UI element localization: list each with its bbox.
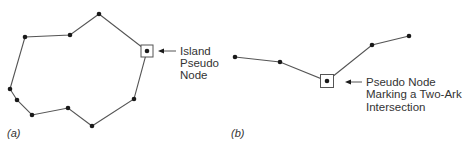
node-point [233,55,238,60]
annotation-label: Node [180,69,208,81]
node-point [8,87,13,92]
node-point [90,124,95,129]
node-point [23,35,28,40]
arrowhead-icon [345,80,351,85]
annotation-label: Intersection [366,101,425,113]
pseudo-node-point [145,49,150,54]
panel-caption: (b) [231,127,245,139]
annotation-label: Island [180,45,211,57]
panel-a-island-pseudo-node: IslandPseudoNode(a) [7,12,219,139]
node-point [278,60,283,65]
node-point [370,43,375,48]
arrowhead-icon [158,49,164,54]
panel-b-two-arc-pseudo-node: Pseudo NodeMarking a Two-ArkIntersection… [231,34,462,139]
node-point [132,97,137,102]
pseudo-node-diagram: IslandPseudoNode(a) Pseudo NodeMarking a… [0,0,464,150]
node-point [30,113,35,118]
node-point [97,12,102,17]
node-point [66,106,71,111]
pseudo-node-point [325,79,330,84]
annotation-label: Marking a Two-Ark [366,88,462,100]
node-point [15,98,20,103]
node-point [68,33,73,38]
arc-line [10,14,147,126]
annotation-label: Pseudo [180,57,219,69]
panel-caption: (a) [7,127,21,139]
node-point [407,34,412,39]
annotation-label: Pseudo Node [366,76,436,88]
